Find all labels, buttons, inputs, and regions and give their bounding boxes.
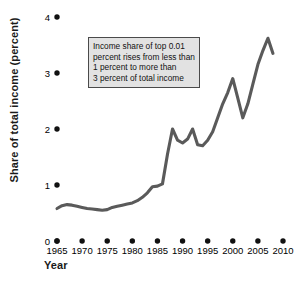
x-tick-dot	[180, 238, 185, 243]
x-tick-dot	[230, 238, 235, 243]
y-tick-label: 4	[45, 12, 50, 23]
x-axis-tick-dots: 1965197019751980198519901995200020052010	[46, 238, 293, 256]
y-axis-title: Share of total income (percent)	[4, 15, 24, 185]
y-tick-dot	[54, 182, 59, 187]
x-tick-label: 1990	[172, 245, 193, 256]
y-tick-dot	[54, 14, 59, 19]
x-tick-dot	[130, 238, 135, 243]
x-tick-dot	[280, 238, 285, 243]
y-tick-label: 2	[45, 124, 50, 135]
x-tick-dot	[205, 238, 210, 243]
y-tick-dot	[54, 126, 59, 131]
x-tick-label: 1985	[147, 245, 168, 256]
chart-container: 1965197019751980198519901995200020052010…	[0, 0, 303, 283]
y-tick-label: 0	[45, 236, 50, 247]
x-tick-label: 1975	[97, 245, 118, 256]
x-tick-label: 1980	[122, 245, 143, 256]
annotation-line-2: percent rises from less than	[93, 52, 195, 63]
x-tick-label: 1965	[46, 245, 67, 256]
x-tick-label: 2005	[247, 245, 268, 256]
annotation-callout-box: Income share of top 0.01 percent rises f…	[88, 37, 200, 88]
y-axis-tick-dots: 01234	[45, 12, 60, 247]
x-tick-dot	[79, 238, 84, 243]
x-tick-label: 1995	[197, 245, 218, 256]
annotation-line-1: Income share of top 0.01	[93, 41, 195, 52]
y-tick-label: 3	[45, 68, 50, 79]
y-tick-dot	[54, 70, 59, 75]
y-axis-title-text: Share of total income (percent)	[8, 17, 20, 182]
annotation-line-3: 1 percent to more than	[93, 62, 195, 73]
x-tick-label: 2010	[272, 245, 293, 256]
x-tick-dot	[105, 238, 110, 243]
x-tick-dot	[155, 238, 160, 243]
y-tick-dot	[54, 238, 59, 243]
x-tick-label: 2000	[222, 245, 243, 256]
x-tick-dot	[255, 238, 260, 243]
x-tick-label: 1970	[72, 245, 93, 256]
annotation-line-4: 3 percent of total income	[93, 73, 195, 84]
x-axis-title-text: Year	[44, 259, 68, 271]
y-tick-label: 1	[45, 180, 50, 191]
